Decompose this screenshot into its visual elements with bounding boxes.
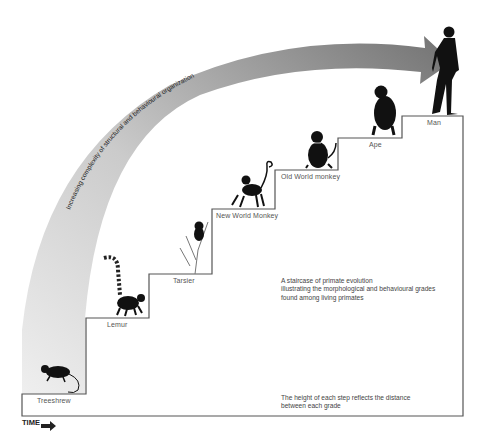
time-arrow-icon: [41, 421, 56, 431]
main-caption: A staircase of primate evolution illustr…: [281, 277, 435, 302]
step-label-ape: Ape: [369, 141, 382, 148]
note-line-2: between each grade: [281, 402, 410, 410]
step-label-tarsier: Tarsier: [173, 277, 195, 284]
tarsier-icon: [180, 222, 208, 275]
step-label-man: Man: [427, 119, 441, 126]
new-world-monkey-icon: [232, 162, 272, 208]
time-axis: TIME: [22, 418, 40, 427]
step-height-note: The height of each step reflects the dis…: [281, 394, 410, 411]
old-world-monkey-icon: [306, 131, 336, 168]
step-label-treeshrew: Treeshrew: [37, 397, 71, 404]
main-caption-line-3: found among living primates: [281, 294, 435, 302]
time-label: TIME: [22, 418, 40, 427]
step-label-lemur: Lemur: [107, 321, 127, 328]
ape-icon: [373, 86, 396, 136]
main-caption-line-2: illustrating the morphological and behav…: [281, 285, 435, 293]
step-label-old-world-monkey: Old World monkey: [281, 173, 340, 180]
lemur-icon: [104, 257, 145, 316]
primate-staircase-diagram: Increasing complexity of structural and …: [0, 0, 489, 444]
main-caption-line-1: A staircase of primate evolution: [281, 277, 435, 285]
step-label-new-world-monkey: New World Monkey: [216, 212, 278, 219]
note-line-1: The height of each step reflects the dis…: [281, 394, 410, 402]
